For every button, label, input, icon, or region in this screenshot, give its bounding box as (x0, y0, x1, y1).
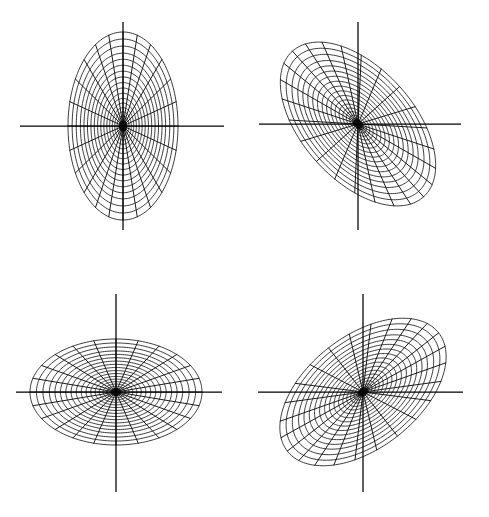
spoke-14 (280, 392, 363, 421)
polar-mesh-svg-bottom-right (0, 0, 489, 517)
figure-root (0, 0, 489, 517)
polar-ellipse-panel-bottom-right (0, 0, 489, 517)
spoke-2 (363, 363, 446, 392)
